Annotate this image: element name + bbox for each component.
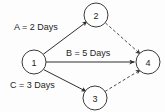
network-diagram-canvas: 1 2 3 4 A = 2 Days B = 5 Days C = 3 Days xyxy=(0,0,165,112)
edge-label-activity-b: B = 5 Days xyxy=(66,48,111,58)
node-1-label: 1 xyxy=(31,58,36,68)
network-diagram: 1 2 3 4 A = 2 Days B = 5 Days C = 3 Days xyxy=(0,0,165,112)
node-2-label: 2 xyxy=(93,11,98,21)
edge-label-activity-a: A = 2 Days xyxy=(14,22,58,32)
edge-label-activity-c: C = 3 Days xyxy=(10,80,55,90)
node-3-label: 3 xyxy=(92,94,97,104)
node-4-label: 4 xyxy=(145,58,150,68)
edge-2-to-4-dashed xyxy=(105,23,140,54)
edge-3-to-4-dashed xyxy=(105,70,141,92)
